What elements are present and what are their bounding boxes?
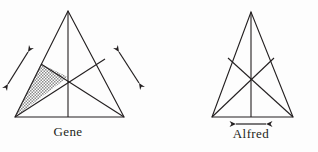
alfred-label: Alfred [233,126,269,141]
gene-label: Gene [53,124,82,139]
figure-container: Gene Alfred [0,0,318,152]
figure-canvas: Gene Alfred [0,0,318,152]
